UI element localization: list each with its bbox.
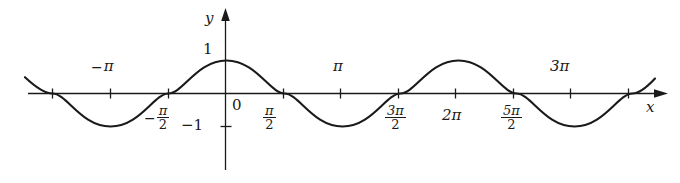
cosine-graph-figure: y x 0 1 −1 −π −π2 π2 π 3π2 2π 5π2 3π <box>0 0 680 183</box>
x-tick-label-5pi-over-2: 5π2 <box>501 104 522 132</box>
fraction-numerator: π <box>157 104 170 118</box>
fraction-denominator: 2 <box>501 118 522 131</box>
fraction: 5π2 <box>501 104 522 132</box>
fraction: π2 <box>263 104 276 132</box>
y-axis-label: y <box>205 11 213 26</box>
minus-sign: − <box>144 111 157 125</box>
x-axis <box>28 89 668 98</box>
fraction: 3π2 <box>385 104 406 132</box>
y-axis <box>221 8 230 170</box>
fraction-denominator: 2 <box>385 118 406 131</box>
pi-symbol: π <box>333 57 343 75</box>
fraction-numerator: π <box>263 104 276 118</box>
pi-symbol: π <box>104 57 114 75</box>
y-tick-label-1: 1 <box>203 42 213 57</box>
graph-canvas <box>0 0 680 183</box>
fraction: π2 <box>157 104 170 132</box>
pi-symbol: 2π <box>442 106 461 124</box>
x-tick-label-3pi: 3π <box>550 59 569 74</box>
x-axis-label: x <box>646 100 654 115</box>
origin-label: 0 <box>232 98 242 113</box>
x-tick-label-minus-pi-over-2: −π2 <box>144 104 169 132</box>
x-tick-label-minus-pi: −π <box>91 59 114 74</box>
minus-sign: − <box>91 60 104 74</box>
y-tick-label-minus-1: −1 <box>181 118 203 133</box>
fraction-numerator: 5π <box>501 104 522 118</box>
x-tick-label-2pi: 2π <box>442 108 461 123</box>
x-tick-label-pi: π <box>333 59 343 74</box>
fraction-denominator: 2 <box>157 118 170 131</box>
fraction-numerator: 3π <box>385 104 406 118</box>
fraction-denominator: 2 <box>263 118 276 131</box>
pi-symbol: 3π <box>550 57 569 75</box>
x-tick-label-3pi-over-2: 3π2 <box>385 104 406 132</box>
x-tick-label-pi-over-2: π2 <box>263 104 276 132</box>
